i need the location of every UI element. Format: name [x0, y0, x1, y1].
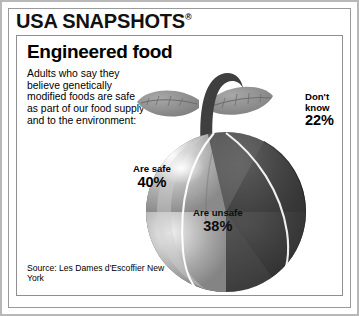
usa-snapshots-graphic: USA SNAPSHOTS® Engineered food Adults wh…	[0, 0, 359, 316]
leaf-left-icon	[137, 90, 199, 116]
callout-are-unsafe-label: Are unsafe	[193, 208, 243, 219]
callout-dont-know-label-line1: Don't	[305, 92, 334, 103]
source-attribution: Source: Les Dames d'Escoffier New York	[27, 263, 177, 283]
callout-are-unsafe: Are unsafe 38%	[193, 208, 243, 234]
content-panel: Engineered food Adults who say they beli…	[16, 35, 343, 296]
masthead-title: USA SNAPSHOTS®	[16, 11, 191, 31]
callout-are-safe-label: Are safe	[133, 164, 171, 175]
callout-are-unsafe-value: 38%	[193, 219, 243, 234]
callout-dont-know-value: 22%	[305, 113, 334, 128]
callout-are-safe-value: 40%	[133, 175, 171, 190]
registered-trademark-icon: ®	[185, 12, 191, 22]
callout-are-safe: Are safe 40%	[133, 164, 171, 190]
masthead-title-text: USA SNAPSHOTS	[16, 10, 185, 32]
callout-dont-know: Don't know 22%	[305, 92, 334, 128]
